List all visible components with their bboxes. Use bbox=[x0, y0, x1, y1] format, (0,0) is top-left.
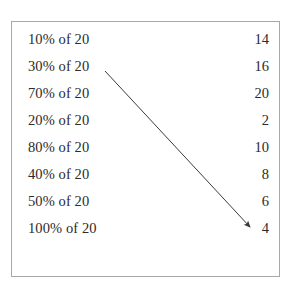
table-row[interactable]: 10% of 20 14 bbox=[12, 26, 279, 53]
row-answer[interactable]: 20 bbox=[255, 80, 270, 107]
table-row[interactable]: 40% of 20 8 bbox=[12, 161, 279, 188]
table-row[interactable]: 20% of 20 2 bbox=[12, 107, 279, 134]
row-answer[interactable]: 4 bbox=[262, 215, 269, 242]
worksheet-page: 10% of 20 14 30% of 20 16 70% of 20 20 2… bbox=[0, 0, 291, 289]
row-prompt[interactable]: 10% of 20 bbox=[28, 26, 89, 53]
table-row[interactable]: 70% of 20 20 bbox=[12, 80, 279, 107]
matching-exercise-box: 10% of 20 14 30% of 20 16 70% of 20 20 2… bbox=[11, 21, 280, 277]
table-row[interactable]: 80% of 20 10 bbox=[12, 134, 279, 161]
row-prompt[interactable]: 30% of 20 bbox=[28, 53, 89, 80]
row-prompt[interactable]: 20% of 20 bbox=[28, 107, 89, 134]
table-row[interactable]: 50% of 20 6 bbox=[12, 188, 279, 215]
row-answer[interactable]: 14 bbox=[255, 26, 270, 53]
row-prompt[interactable]: 50% of 20 bbox=[28, 188, 89, 215]
row-answer[interactable]: 10 bbox=[255, 134, 270, 161]
table-row[interactable]: 30% of 20 16 bbox=[12, 53, 279, 80]
row-prompt[interactable]: 70% of 20 bbox=[28, 80, 89, 107]
row-prompt[interactable]: 40% of 20 bbox=[28, 161, 89, 188]
row-prompt[interactable]: 80% of 20 bbox=[28, 134, 89, 161]
row-answer[interactable]: 6 bbox=[262, 188, 269, 215]
row-answer[interactable]: 2 bbox=[262, 107, 269, 134]
row-answer[interactable]: 16 bbox=[255, 53, 270, 80]
row-answer[interactable]: 8 bbox=[262, 161, 269, 188]
row-prompt[interactable]: 100% of 20 bbox=[28, 215, 97, 242]
table-row[interactable]: 100% of 20 4 bbox=[12, 215, 279, 242]
